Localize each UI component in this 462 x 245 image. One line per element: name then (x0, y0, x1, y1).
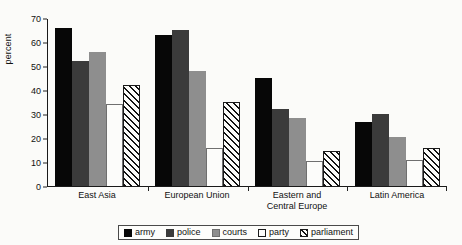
bar-party (306, 161, 323, 186)
x-axis-category-label: European Union (147, 190, 247, 212)
y-axis-tick-label: 40 (0, 87, 41, 96)
bar-courts (389, 137, 406, 186)
category-label-line: Eastern and (247, 190, 347, 201)
bar-party (206, 148, 223, 186)
legend-label: party (269, 228, 289, 237)
legend-item-army[interactable]: army (124, 228, 155, 237)
legend-swatch-courts (212, 229, 220, 237)
bar-group (347, 19, 447, 186)
bar-army (55, 28, 72, 186)
y-axis-tick-label: 20 (0, 135, 41, 144)
bar-courts (289, 118, 306, 186)
x-axis-category-label: Eastern andCentral Europe (247, 190, 347, 212)
x-axis-category-label: East Asia (47, 190, 147, 212)
category-label-line: East Asia (47, 190, 147, 201)
y-axis-tick-label: 0 (0, 183, 41, 192)
bar-groups (48, 19, 447, 186)
y-axis-tick-label: 30 (0, 111, 41, 120)
y-axis-tick-label: 60 (0, 39, 41, 48)
legend-item-police[interactable]: police (166, 228, 201, 237)
bar-parliament (223, 102, 240, 186)
y-axis-tick-label: 10 (0, 159, 41, 168)
bar-chart: percent 010203040506070 East AsiaEuropea… (0, 0, 462, 245)
bar-party (406, 160, 423, 186)
legend-swatch-party (258, 229, 266, 237)
plot-area (47, 19, 447, 187)
bar-group (248, 19, 348, 186)
category-label-line: Central Europe (247, 201, 347, 212)
category-label-line: Latin America (347, 190, 447, 201)
bar-group (148, 19, 248, 186)
legend-item-party[interactable]: party (258, 228, 289, 237)
bar-group (48, 19, 148, 186)
bar-parliament (323, 151, 340, 186)
bar-police (272, 109, 289, 186)
bar-parliament (423, 148, 440, 186)
bar-courts (189, 71, 206, 186)
legend-swatch-police (166, 229, 174, 237)
bar-courts (89, 52, 106, 186)
legend-item-courts[interactable]: courts (212, 228, 248, 237)
bar-army (155, 35, 172, 186)
bar-police (72, 61, 89, 186)
bar-army (255, 78, 272, 186)
legend-label: courts (223, 228, 248, 237)
bar-army (355, 122, 372, 186)
y-axis-tick-label: 50 (0, 63, 41, 72)
y-axis-tick-label: 70 (0, 15, 41, 24)
bar-police (372, 114, 389, 186)
bar-police (172, 30, 189, 186)
legend-label: army (135, 228, 155, 237)
legend-label: police (177, 228, 201, 237)
bar-party (106, 104, 123, 186)
legend-item-parliament[interactable]: parliament (300, 228, 353, 237)
legend-label: parliament (311, 228, 353, 237)
legend-swatch-army (124, 229, 132, 237)
legend-swatch-parliament (300, 229, 308, 237)
x-axis-category-label: Latin America (347, 190, 447, 212)
category-label-line: European Union (147, 190, 247, 201)
x-axis-category-labels: East AsiaEuropean UnionEastern andCentra… (47, 190, 447, 212)
bar-parliament (123, 85, 140, 186)
chart-legend: armypolicecourtspartyparliament (118, 225, 359, 240)
